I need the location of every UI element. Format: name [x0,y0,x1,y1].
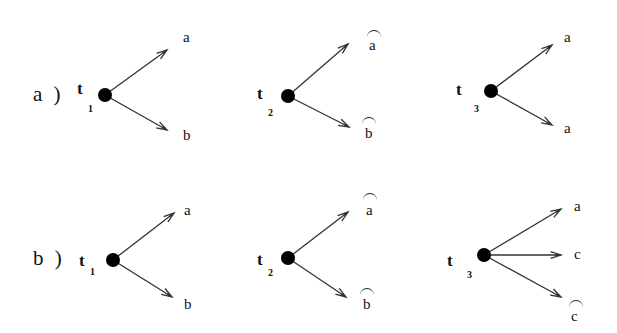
arrowhead-icon [161,289,172,297]
tree-a2-var: t [257,85,263,102]
tree-a1-var: t [77,80,83,97]
leaf-b1-up: a [184,203,191,218]
branch-arrow [288,44,348,96]
leaf-a1-up: a [183,30,190,45]
leaf-b3-mid: c [574,247,581,262]
branch-arrow [105,95,167,130]
leaf-a3-up: a [564,30,571,45]
leaf-b3-down: c [571,309,578,324]
tree-a3-sub: 3 [474,104,479,114]
arrowhead-icon [541,117,552,125]
row-label-a: a ) [33,84,64,105]
arrowhead-icon [156,122,167,130]
leaf-a1-down: b [183,128,191,143]
branch-arrow [105,50,167,95]
branch-arrow [491,91,552,125]
leaf-a3-down: a [564,121,571,136]
arrowhead-icon [550,209,561,217]
tree-root-node [477,248,491,262]
leaf-a2-down: b [365,126,373,141]
hat-mark [569,300,583,307]
hat-mark [367,30,381,37]
arrowhead-icon [550,289,561,297]
leaf-a2-up: a [369,38,376,53]
tree-b3-sub: 3 [467,270,472,280]
arrowhead-icon [335,288,346,297]
tree-root-node [281,89,295,103]
branch-arrow [288,258,346,297]
leaf-b1-down: b [184,297,192,312]
tree-b1-var: t [79,252,85,269]
tree-b3-var: t [447,252,453,269]
branch-arrow [288,212,348,258]
branch-arrow [113,213,174,260]
tree-b2-var: t [257,251,263,268]
hat-mark [363,193,377,200]
leaf-b2-down: b [363,297,371,312]
hat-mark [362,117,376,124]
tree-a2-sub: 2 [268,108,273,118]
branch-arrow [484,209,561,255]
branch-arrow [484,255,561,297]
tree-b1-sub: 1 [90,267,95,277]
tree-a3-var: t [456,81,462,98]
branch-arrow [113,260,172,297]
branch-arrow [288,96,349,127]
tree-a1-sub: 1 [88,104,93,114]
leaf-b3-up: a [574,199,581,214]
tree-diagram-canvas [0,0,617,333]
arrowhead-icon [338,119,349,127]
branch-arrow [491,45,552,91]
tree-root-node [98,88,112,102]
leaf-b2-up: a [366,203,373,218]
tree-root-node [106,253,120,267]
tree-b2-sub: 2 [268,268,273,278]
hat-mark [360,288,374,295]
tree-root-node [281,251,295,265]
tree-root-node [484,84,498,98]
row-label-b: b ) [33,248,65,269]
